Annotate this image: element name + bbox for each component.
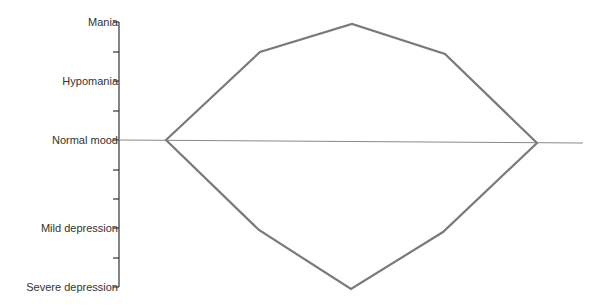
normal-mood-baseline <box>119 140 583 143</box>
mood-cycle-shape <box>166 24 537 289</box>
mood-chart <box>0 0 611 308</box>
y-axis <box>113 22 119 287</box>
